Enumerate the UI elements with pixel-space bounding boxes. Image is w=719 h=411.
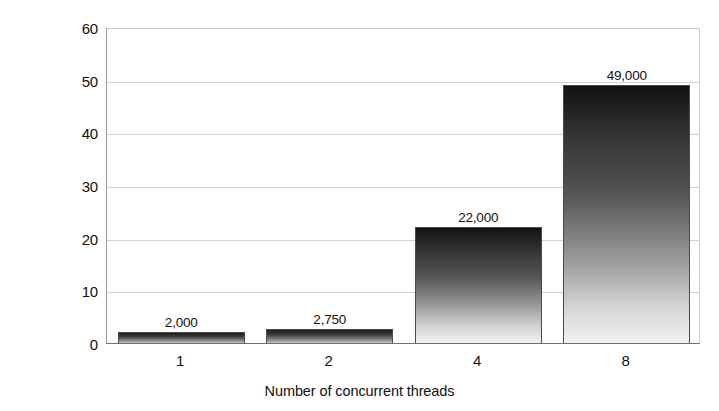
y-axis-tick-labels: 0102030405060 [46, 0, 98, 411]
y-tick-label-0: 0 [52, 336, 98, 353]
bar-value-label-4: 22,000 [458, 210, 498, 225]
y-tick-label-20: 20 [52, 230, 98, 247]
bar-1[interactable] [118, 332, 245, 343]
x-tick-label-1: 1 [176, 352, 184, 369]
bar-value-label-8: 49,000 [607, 68, 647, 83]
x-tick-label-2: 2 [325, 352, 333, 369]
bar-8[interactable] [563, 85, 690, 343]
y-tick-label-60: 60 [52, 20, 98, 37]
y-tick-label-40: 40 [52, 125, 98, 142]
y-tick-label-50: 50 [52, 72, 98, 89]
bar-4[interactable] [415, 227, 542, 343]
x-tick-label-8: 8 [622, 352, 630, 369]
x-axis-title: Number of concurrent threads [0, 383, 719, 399]
bar-value-label-2: 2,750 [313, 312, 346, 327]
x-tick-label-4: 4 [473, 352, 481, 369]
y-tick-label-30: 30 [52, 178, 98, 195]
bar-value-label-1: 2,000 [165, 315, 198, 330]
bar-2[interactable] [266, 329, 393, 343]
plot-area: 2,0002,75022,00049,000 [106, 28, 700, 344]
y-axis-title-line-1: Milliseconds [12, 0, 29, 1]
bar-chart: Milliseconds (thousands) 0102030405060 2… [0, 0, 719, 411]
y-tick-label-10: 10 [52, 283, 98, 300]
